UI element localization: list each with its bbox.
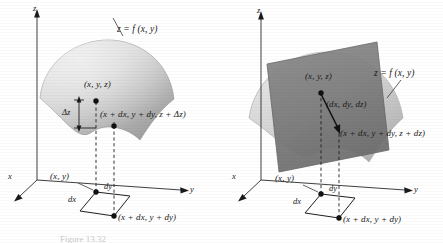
diagram-panel-right: z x y z = f (x, y) (x, y, z) (dx, dy, dz… (221, 0, 443, 243)
differential-vector-label: (dx, dy, dz) (326, 100, 367, 109)
x-axis (20, 180, 37, 196)
point-xyz-label: (x, y, z) (84, 80, 111, 89)
point-base-corner (336, 215, 341, 220)
figure-root: z x y z = f (x, y) (x, y, z) Δz (x + dx,… (0, 0, 443, 243)
dx-label: dx (293, 197, 301, 206)
surface-equation-label: z = f (x, y) (374, 69, 415, 79)
point-xyz-incremented (111, 123, 116, 128)
y-axis-arrow (404, 187, 413, 193)
surface-equation-label: z = f (x, y) (117, 25, 158, 35)
z-axis-label: z (33, 4, 36, 13)
base-point-label: (x, y) (275, 174, 294, 183)
point-xyz (318, 90, 323, 95)
base-point-leader (303, 185, 318, 192)
point-incremented-label: (x + dx, y + dy, z + Δz) (100, 110, 186, 119)
point-base-xy (93, 189, 98, 194)
x-axis-label: x (232, 172, 236, 181)
point-xyz (93, 98, 98, 103)
y-axis-label: y (414, 185, 418, 194)
dx-label: dx (68, 195, 76, 204)
dy-label: dy (104, 182, 112, 191)
delta-z-label: Δz (62, 108, 71, 117)
y-axis-arrow (180, 187, 189, 193)
z-axis-label: z (257, 6, 260, 15)
x-axis (244, 180, 261, 196)
figure-caption: Figure 13.32 (60, 234, 106, 243)
y-axis-label: y (190, 185, 194, 194)
point-base-corner (111, 213, 116, 218)
point-base-xy (318, 191, 323, 196)
dy-label: dy (329, 184, 337, 193)
base-corner-label: (x + dx, y + dy) (118, 213, 176, 222)
base-point-label: (x, y) (50, 172, 69, 181)
diagram-panel-left: z x y z = f (x, y) (x, y, z) Δz (x + dx,… (0, 0, 222, 243)
surface-patch (40, 40, 174, 140)
point-xyz-label: (x, y, z) (305, 72, 332, 81)
x-axis-label: x (8, 172, 12, 181)
point-incremented-label: (x + dx, y + dy, z + dz) (340, 129, 425, 138)
base-corner-label: (x + dx, y + dy) (343, 215, 401, 224)
